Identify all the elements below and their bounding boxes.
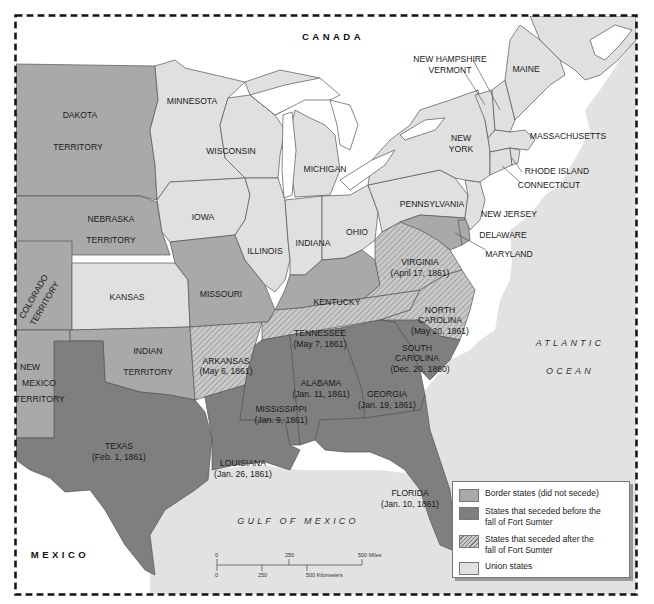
label-north-carolina-1: NORTH (425, 305, 455, 315)
legend-label-seceded-before: States that seceded before the fall of F… (485, 506, 605, 528)
label-south-carolina-2: CAROLINA (395, 353, 439, 363)
label-north-carolina-2: CAROLINA (418, 315, 462, 325)
label-georgia: GEORGIA (367, 389, 407, 399)
label-texas-date: (Feb. 1, 1861) (92, 452, 146, 462)
legend-swatch-border (459, 489, 479, 502)
label-atlantic: ATLANTIC (535, 338, 604, 348)
label-kansas: KANSAS (110, 292, 145, 302)
label-new-hampshire: NEW HAMPSHIRE (413, 54, 487, 64)
label-missouri: MISSOURI (200, 289, 243, 299)
label-indian: INDIAN (133, 346, 162, 356)
legend-label-border: Border states (did not secede) (485, 488, 625, 499)
label-new-mexico-1: NEW (20, 362, 41, 372)
label-dakota: DAKOTA (63, 110, 98, 120)
scale-km-0: 0 (215, 572, 218, 578)
label-new-mexico-2: MEXICO (22, 378, 56, 388)
label-florida-date: (Jan. 10, 1861) (381, 499, 439, 509)
label-iowa: IOWA (192, 212, 215, 222)
label-kentucky: KENTUCKY (314, 297, 361, 307)
label-dakota-territory: TERRITORY (53, 142, 103, 152)
legend-label-seceded-after: States that seceded after the fall of Fo… (485, 534, 605, 556)
label-massachusetts: MASSACHUSETTS (530, 131, 607, 141)
label-minnesota: MINNESOTA (167, 96, 218, 106)
label-indiana: INDIANA (296, 238, 331, 248)
label-tennessee-date: (May 7, 1861) (293, 339, 346, 349)
region-iowa[interactable] (157, 178, 250, 242)
label-nebraska-territory: TERRITORY (86, 235, 136, 245)
label-virginia-date: (April 17, 1861) (391, 268, 450, 278)
label-mississippi-date: (Jan. 9, 1861) (254, 415, 307, 425)
label-michigan: MICHIGAN (304, 164, 347, 174)
label-nebraska: NEBRASKA (88, 214, 135, 224)
region-dakota[interactable] (16, 64, 158, 200)
label-alabama: ALABAMA (301, 378, 342, 388)
label-canada: CANADA (302, 31, 364, 42)
label-georgia-date: (Jan. 19, 1861) (358, 400, 416, 410)
label-maine: MAINE (512, 64, 539, 74)
label-florida: FLORIDA (391, 488, 429, 498)
legend-item-seceded-before: States that seceded before the fall of F… (459, 506, 605, 528)
label-texas: TEXAS (105, 441, 133, 451)
label-maryland: MARYLAND (485, 249, 533, 259)
label-north-carolina-date: (May 20, 1861) (411, 326, 469, 336)
label-arkansas: ARKANSAS (203, 356, 250, 366)
label-louisiana-date: (Jan. 26, 1861) (214, 469, 272, 479)
label-connecticut: CONNECTICUT (518, 180, 581, 190)
label-new-york-2: YORK (449, 144, 474, 154)
scale-km-500: 500 Kilometers (306, 572, 343, 578)
label-louisiana: LOUISIANA (220, 458, 266, 468)
region-indiana[interactable] (285, 196, 322, 275)
legend-swatch-seceded-after (459, 535, 479, 548)
label-ohio: OHIO (346, 227, 368, 237)
legend-item-border: Border states (did not secede) (459, 488, 625, 502)
label-indian-territory: TERRITORY (123, 367, 173, 377)
scale-miles-500: 500 Miles (358, 552, 382, 558)
map-legend: Border states (did not secede) States th… (452, 481, 630, 578)
label-south-carolina-date: (Dec. 20, 1860) (390, 364, 449, 374)
label-new-jersey: NEW JERSEY (481, 209, 537, 219)
label-new-york-1: NEW (451, 133, 472, 143)
label-alabama-date: (Jan. 11, 1861) (292, 389, 349, 399)
label-mexico: MEXICO (31, 549, 89, 560)
label-arkansas-date: (May 6, 1861) (199, 366, 252, 376)
label-rhode-island: RHODE ISLAND (525, 166, 589, 176)
legend-swatch-union (459, 562, 479, 575)
label-tennessee: TENNESSEE (294, 328, 346, 338)
label-south-carolina-1: SOUTH (402, 343, 432, 353)
scale-miles-0: 0 (215, 552, 218, 558)
scale-km-250: 250 (258, 572, 267, 578)
label-gulf-of-mexico: GULF OF MEXICO (237, 516, 358, 526)
label-pennsylvania: PENNSYLVANIA (400, 199, 465, 209)
scale-miles-250: 250 (285, 552, 294, 558)
label-delaware: DELAWARE (479, 230, 527, 240)
legend-label-union: Union states (485, 561, 625, 572)
label-virginia: VIRGINIA (401, 257, 439, 267)
label-mississippi: MISSISSIPPI (255, 404, 306, 414)
label-new-mexico-3: TERRITORY (15, 394, 65, 404)
legend-swatch-seceded-before (459, 507, 479, 520)
label-illinois: ILLINOIS (247, 246, 283, 256)
label-wisconsin: WISCONSIN (206, 146, 256, 156)
label-ocean: OCEAN (546, 366, 594, 376)
legend-item-union: Union states (459, 561, 625, 575)
label-vermont: VERMONT (429, 65, 473, 75)
legend-item-seceded-after: States that seceded after the fall of Fo… (459, 534, 605, 556)
